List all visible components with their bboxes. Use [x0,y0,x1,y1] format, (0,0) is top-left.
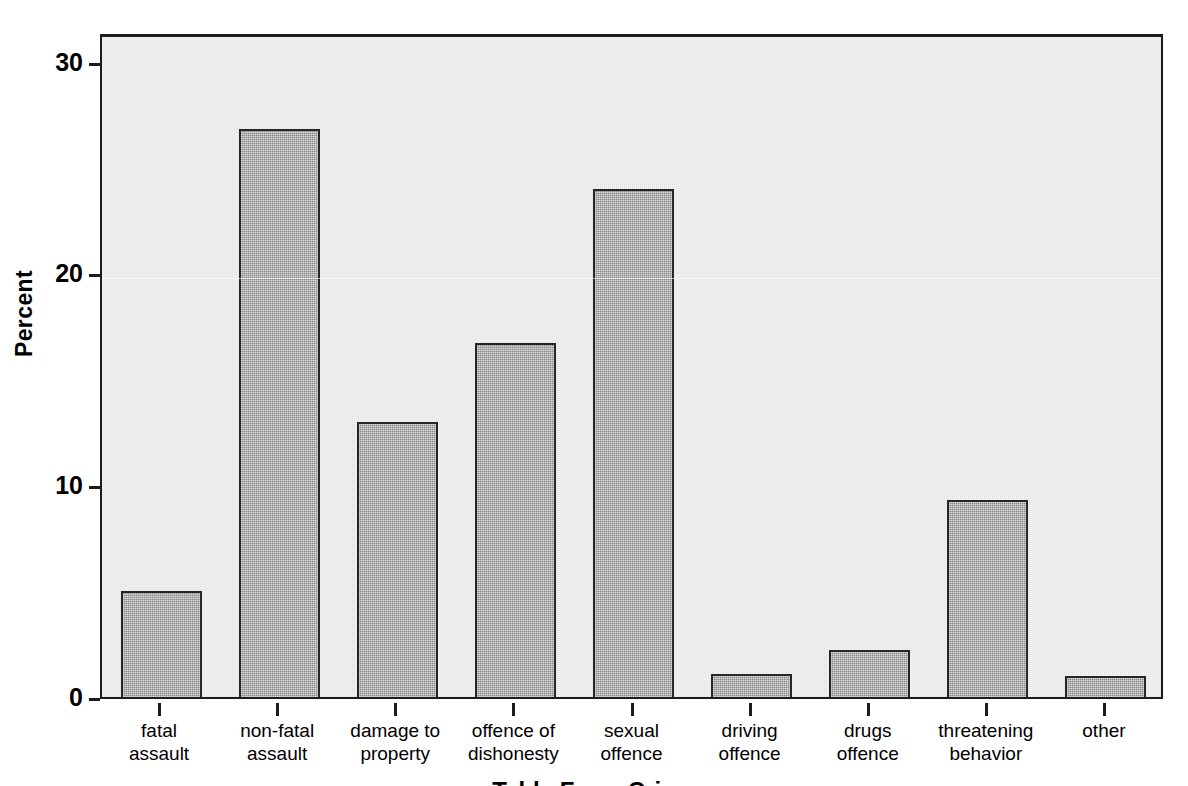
bar [1065,676,1146,697]
y-tick-label: 0 [0,683,83,712]
bar [593,189,674,697]
plot-scan-artifact [102,278,1161,279]
x-tick-label-line2: behavior [896,742,1076,765]
bar [711,674,792,697]
x-tick-label-line1: sexual [604,720,659,741]
bar [121,591,202,697]
bar [947,500,1028,697]
bar-chart: Percent 0102030 fatalassaultnon-fatalass… [0,0,1188,786]
x-tick-label: other [1014,719,1188,742]
y-tick-mark [89,486,100,489]
x-tick-mark [867,703,870,716]
bar [475,343,556,697]
x-tick-label-line1: drugs [844,720,892,741]
bar [239,129,320,697]
x-tick-label-line1: driving [722,720,778,741]
x-tick-label-line1: other [1082,720,1125,741]
y-tick-label: 20 [0,259,83,288]
x-tick-mark [158,703,161,716]
x-tick-label-line1: non-fatal [240,720,314,741]
x-axis-title-clipped: Table Four: Crime [0,777,1188,786]
x-tick-mark [512,703,515,716]
y-tick-mark [89,698,100,701]
x-tick-mark [749,703,752,716]
y-tick-label: 30 [0,48,83,77]
y-tick-label: 10 [0,471,83,500]
x-tick-label-line1: fatal [141,720,177,741]
x-tick-mark [631,703,634,716]
x-tick-mark [985,703,988,716]
x-tick-mark [1103,703,1106,716]
y-tick-mark [89,274,100,277]
y-tick-mark [89,63,100,66]
x-tick-mark [276,703,279,716]
bar [357,422,438,697]
x-axis-title-text: Table Four: Crime [0,777,1188,786]
plot-area [100,34,1163,699]
x-tick-mark [394,703,397,716]
bar [829,650,910,697]
